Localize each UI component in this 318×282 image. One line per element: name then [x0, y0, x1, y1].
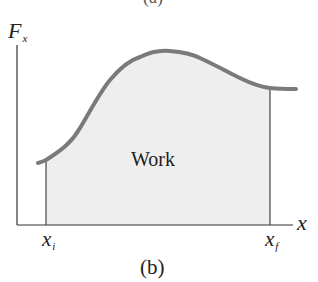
upper-limit-label: xf [265, 229, 278, 250]
work-area-label: Work [131, 149, 175, 169]
work-diagram: (a) Fx x xi xf Work (b) [0, 0, 318, 282]
lower-limit-label: xi [42, 229, 55, 250]
figure-caption: (b) [140, 257, 165, 278]
x-axis-label: x [297, 212, 307, 234]
y-axis-label: Fx [8, 20, 27, 42]
